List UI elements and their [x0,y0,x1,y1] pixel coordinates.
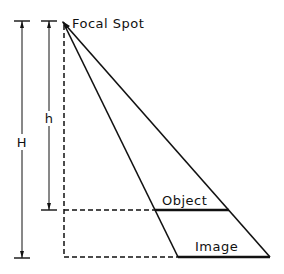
image-label: Image [195,239,238,254]
H-arrow-up [20,21,24,28]
ray-right [63,22,270,257]
H-label: H [17,135,27,150]
object-label: Object [162,193,207,208]
h-arrow-up [47,21,51,28]
focal-spot-label: Focal Spot [72,16,144,31]
magnification-diagram: H h Focal Spot Object Image [0,0,284,274]
h-arrow-down [47,203,51,210]
h-label: h [45,111,54,126]
ray-left [63,22,178,257]
H-arrow-down [20,251,24,258]
